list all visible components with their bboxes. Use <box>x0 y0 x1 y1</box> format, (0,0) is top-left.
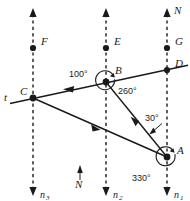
point-dot-E <box>103 45 109 51</box>
label-n2-base: n <box>113 189 118 200</box>
angle-label-260: 260° <box>118 86 137 96</box>
north-arrow-top-n3 <box>29 8 36 17</box>
compass-north-arrowhead <box>77 165 83 173</box>
angle-pointer-30-arrowhead <box>149 128 156 135</box>
label-north-line-n1: n 1 <box>174 189 184 201</box>
label-point-G: G <box>175 35 183 47</box>
point-dot-G <box>164 45 170 51</box>
label-point-B: B <box>115 64 122 76</box>
point-dot-A <box>164 154 171 161</box>
label-north-top: N <box>173 4 182 16</box>
label-n3-sub: 3 <box>45 194 50 201</box>
transversal-line-t <box>10 65 188 103</box>
point-dot-F <box>30 45 36 51</box>
label-n3-base: n <box>40 189 45 200</box>
point-dot-C <box>30 95 37 102</box>
north-arrow-bottom-n1 <box>163 187 170 196</box>
label-n1-base: n <box>174 189 179 200</box>
label-north-line-n3: n 3 <box>40 189 50 201</box>
north-line-n1 <box>163 8 170 196</box>
diagram-canvas: F E G D B C A t N N 100° 260° 30° 330° n… <box>0 0 190 201</box>
north-arrow-top-n2 <box>102 8 109 17</box>
label-point-D: D <box>174 57 183 69</box>
angle-label-330: 330° <box>132 173 151 183</box>
north-arrow-bottom-n2 <box>102 187 109 196</box>
north-line-n2 <box>102 8 109 196</box>
north-arrow-bottom-n3 <box>29 187 36 196</box>
label-point-E: E <box>113 35 121 47</box>
label-compass-north: N <box>74 178 83 190</box>
label-n2-sub: 2 <box>119 194 123 201</box>
label-point-C: C <box>20 85 28 97</box>
angle-label-30: 30° <box>145 113 159 123</box>
label-n1-sub: 1 <box>180 194 184 201</box>
label-transversal-t: t <box>4 91 8 103</box>
angle-label-100: 100° <box>69 69 88 79</box>
north-arrow-top-n1 <box>163 8 170 17</box>
north-line-n3 <box>29 8 36 196</box>
point-dot-D <box>164 67 170 73</box>
label-north-line-n2: n 2 <box>113 189 123 201</box>
bearings-diagram: F E G D B C A t N N 100° 260° 30° 330° n… <box>0 0 190 201</box>
angle-pointer-30 <box>149 124 162 135</box>
label-point-F: F <box>40 35 48 47</box>
point-dot-B <box>103 79 110 86</box>
segment-c-to-a <box>33 98 167 157</box>
label-point-A: A <box>176 144 184 156</box>
